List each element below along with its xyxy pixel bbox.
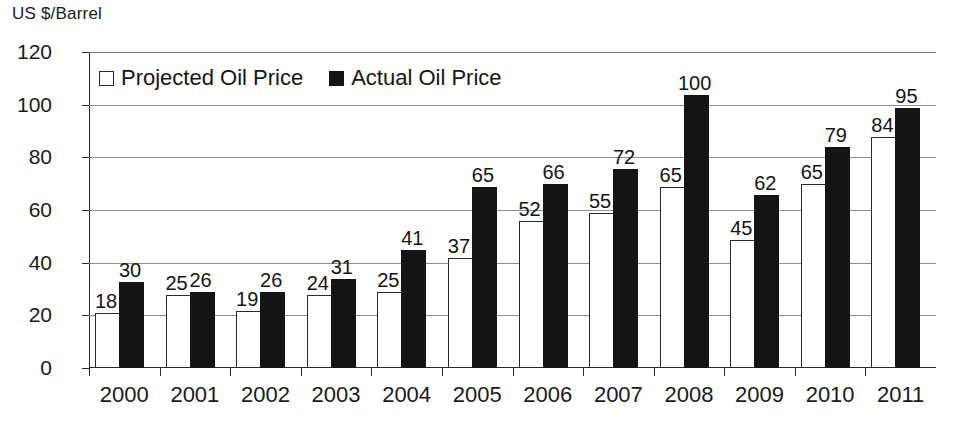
plot-area: 0204060801001201830252619262431254137655… — [89, 52, 936, 368]
x-axis-label-2007: 2007 — [579, 382, 657, 408]
bar-projected-2002[interactable] — [236, 311, 261, 368]
legend-swatch-open-icon — [99, 71, 114, 86]
bar-value-label-actual-2004: 41 — [389, 227, 435, 250]
bar-actual-2004[interactable] — [401, 250, 426, 368]
bar-projected-2001[interactable] — [166, 295, 191, 368]
bar-group-2003: 2431 — [301, 52, 372, 368]
y-tick-label-120: 120 — [0, 40, 52, 64]
legend-item-actual: Actual Oil Price — [329, 65, 501, 91]
bar-projected-2000[interactable] — [95, 313, 120, 368]
x-tick-mark-2002 — [230, 368, 231, 376]
x-tick-mark-2006 — [513, 368, 514, 376]
x-tick-mark-2009 — [724, 368, 725, 376]
x-tick-mark-2007 — [583, 368, 584, 376]
bar-projected-2008[interactable] — [660, 187, 685, 368]
chart-legend: Projected Oil Price Actual Oil Price — [95, 62, 510, 94]
bar-value-label-actual-2005: 65 — [460, 164, 506, 187]
bar-value-label-actual-2010: 79 — [813, 124, 859, 147]
y-tick-label-0: 0 — [0, 356, 52, 380]
x-axis-label-2009: 2009 — [721, 382, 799, 408]
x-tick-mark-2008 — [654, 368, 655, 376]
x-axis-label-2004: 2004 — [368, 382, 446, 408]
legend-swatch-filled-icon — [329, 71, 344, 86]
bar-projected-2007[interactable] — [589, 213, 614, 368]
x-tick-mark-2005 — [442, 368, 443, 376]
x-axis-label-2002: 2002 — [226, 382, 304, 408]
bar-actual-2003[interactable] — [331, 279, 356, 368]
x-tick-mark-2010 — [795, 368, 796, 376]
legend-label-actual: Actual Oil Price — [351, 65, 501, 91]
y-tick-label-100: 100 — [0, 93, 52, 117]
bar-projected-2004[interactable] — [377, 292, 402, 368]
x-axis-label-2008: 2008 — [650, 382, 728, 408]
bar-value-label-actual-2003: 31 — [319, 256, 365, 279]
y-tick-label-60: 60 — [0, 198, 52, 222]
bar-group-2007: 5572 — [583, 52, 654, 368]
bar-actual-2002[interactable] — [260, 292, 285, 368]
oil-price-bar-chart: US $/Barrel 0204060801001201830252619262… — [0, 0, 966, 442]
bar-group-2002: 1926 — [230, 52, 301, 368]
bar-value-label-actual-2000: 30 — [107, 259, 153, 282]
bar-value-label-actual-2009: 62 — [742, 172, 788, 195]
x-tick-mark-2011 — [865, 368, 866, 376]
bar-value-label-actual-2007: 72 — [601, 146, 647, 169]
y-tick-mark-20 — [82, 315, 89, 316]
bar-group-2004: 2541 — [371, 52, 442, 368]
bar-group-2008: 65100 — [654, 52, 725, 368]
y-tick-mark-120 — [82, 52, 89, 53]
bar-actual-2000[interactable] — [119, 282, 144, 368]
y-axis-title: US $/Barrel — [12, 4, 102, 24]
bar-projected-2011[interactable] — [871, 137, 896, 368]
y-tick-mark-40 — [82, 263, 89, 264]
bar-projected-2010[interactable] — [801, 184, 826, 368]
y-tick-mark-80 — [82, 157, 89, 158]
x-tick-mark-2000 — [89, 368, 90, 376]
legend-label-projected: Projected Oil Price — [121, 65, 303, 91]
x-axis-label-2003: 2003 — [297, 382, 375, 408]
bar-actual-2011[interactable] — [895, 108, 920, 368]
y-tick-mark-0 — [82, 368, 89, 369]
bar-actual-2009[interactable] — [754, 195, 779, 368]
x-axis-label-2000: 2000 — [85, 382, 163, 408]
bar-value-label-actual-2001: 26 — [178, 269, 224, 292]
bar-group-2011: 8495 — [865, 52, 936, 368]
x-axis-label-2011: 2011 — [862, 382, 940, 408]
y-tick-label-40: 40 — [0, 251, 52, 275]
x-axis-label-2010: 2010 — [791, 382, 869, 408]
x-tick-mark-2001 — [160, 368, 161, 376]
y-tick-label-20: 20 — [0, 303, 52, 327]
bar-group-2000: 1830 — [89, 52, 160, 368]
bar-actual-2008[interactable] — [684, 95, 709, 368]
bar-group-2001: 2526 — [160, 52, 231, 368]
bar-group-2009: 4562 — [724, 52, 795, 368]
bar-projected-2006[interactable] — [519, 221, 544, 368]
x-axis-label-2005: 2005 — [438, 382, 516, 408]
bar-projected-2005[interactable] — [448, 258, 473, 368]
bar-value-label-actual-2008: 100 — [672, 72, 718, 95]
x-tick-mark-2003 — [301, 368, 302, 376]
bar-actual-2006[interactable] — [543, 184, 568, 368]
legend-item-projected: Projected Oil Price — [99, 65, 303, 91]
x-axis-label-2001: 2001 — [156, 382, 234, 408]
bar-actual-2001[interactable] — [190, 292, 215, 368]
bar-actual-2007[interactable] — [613, 169, 638, 369]
x-tick-mark-2004 — [371, 368, 372, 376]
bar-actual-2005[interactable] — [472, 187, 497, 368]
bar-value-label-actual-2011: 95 — [883, 85, 929, 108]
bar-actual-2010[interactable] — [825, 147, 850, 368]
y-tick-mark-100 — [82, 105, 89, 106]
bar-group-2010: 6579 — [795, 52, 866, 368]
bar-value-label-actual-2006: 66 — [531, 161, 577, 184]
y-tick-mark-60 — [82, 210, 89, 211]
bar-projected-2003[interactable] — [307, 295, 332, 368]
bar-projected-2009[interactable] — [730, 240, 755, 368]
bar-group-2005: 3765 — [442, 52, 513, 368]
y-tick-label-80: 80 — [0, 145, 52, 169]
bar-group-2006: 5266 — [513, 52, 584, 368]
x-axis-label-2006: 2006 — [509, 382, 587, 408]
bar-value-label-actual-2002: 26 — [248, 269, 294, 292]
